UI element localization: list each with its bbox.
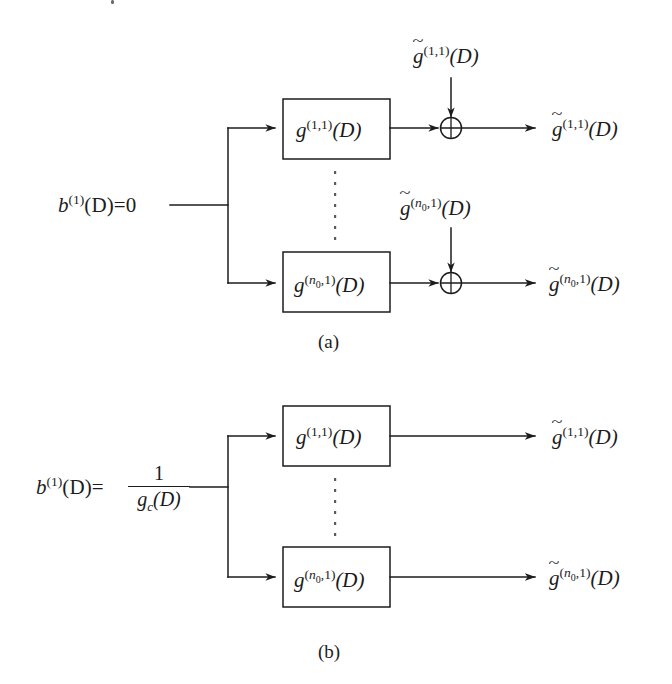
panel-b-block-2-arg: (D)	[335, 568, 364, 592]
panel-a-block-2-superscript: (n0,1)	[305, 272, 336, 287]
panel-a-block-2-arg: (D)	[335, 273, 364, 297]
panel-a-noise-2-tilde-group: ~g	[400, 198, 411, 219]
panel-b-block-2-superscript: (n0,1)	[305, 567, 336, 582]
panel-a-output-2-superscript: (n0,1)	[560, 271, 591, 286]
figure-container: b(1)(D)=0 g(1,1)(D) g(n0,1)(D) ~g(1,1)(D…	[0, 0, 672, 684]
panel-a-block-1-base: g	[296, 118, 307, 142]
tilde-icon: ~	[413, 34, 424, 49]
panel-a-input-arg: (D)=0	[84, 193, 136, 217]
panel-b-output-2-superscript: (n0,1)	[560, 565, 591, 580]
panel-b-output-2-sup-zero: 0	[571, 572, 576, 583]
panel-a-vertical-ellipsis	[334, 171, 336, 240]
panel-b-input-base: b	[36, 475, 47, 499]
panel-b-output-label-1: ~g(1,1)(D)	[552, 425, 618, 448]
panel-b-block-2-sup-n: n	[309, 567, 316, 582]
panel-a-adder-2-cross	[442, 274, 461, 293]
panel-b-output-1-tilde-group: ~g	[552, 427, 563, 448]
panel-b-input-fraction: 1 gc(D)	[128, 462, 190, 515]
panel-b-input-superscript: (1)	[47, 474, 63, 489]
fraction-denominator-base: g	[137, 488, 147, 510]
panel-b-block-1-arg: (D)	[332, 425, 361, 449]
panel-a-output-1-arg: (D)	[588, 117, 617, 141]
tilde-icon: ~	[549, 262, 560, 277]
panel-a-noise-label-1: ~g(1,1)(D)	[413, 44, 479, 67]
panel-a-noise-2-sup-n: n	[415, 195, 422, 210]
panel-a-input-base: b	[58, 193, 69, 217]
panel-a-block-2-sup-zero: 0	[316, 279, 321, 290]
panel-b-block-1-label: g(1,1)(D)	[296, 424, 362, 450]
panel-a-output-1-superscript: (1,1)	[563, 116, 589, 131]
panel-b-block-2-sup-zero: 0	[316, 574, 321, 585]
panel-b-input-arg: (D)=	[62, 475, 103, 499]
panel-b-output-1-superscript: (1,1)	[563, 424, 589, 439]
panel-a-adder-1-cross	[442, 119, 461, 138]
fraction-numerator: 1	[128, 462, 190, 486]
tilde-icon: ~	[549, 556, 560, 571]
panel-a-output-label-2: ~g(n0,1)(D)	[549, 272, 620, 295]
panel-b-block-1-superscript: (1,1)	[307, 424, 333, 439]
panel-a-block-2-label: g(n0,1)(D)	[294, 272, 365, 298]
panel-a-output-2-arg: (D)	[590, 272, 619, 296]
panel-b-vertical-ellipsis	[334, 478, 336, 536]
panel-b-block-2-label: g(n0,1)(D)	[294, 567, 365, 593]
panel-a-output-2-sup-n: n	[564, 271, 571, 286]
panel-b-caption: (b)	[318, 641, 340, 663]
panel-a-output-2-tilde-group: ~g	[549, 274, 560, 295]
panel-a-noise-2-sup-zero: 0	[422, 202, 427, 213]
panel-a-block-1-superscript: (1,1)	[307, 117, 333, 132]
panel-a-caption: (a)	[318, 331, 339, 353]
panel-a-noise-1-arg: (D)	[449, 44, 478, 68]
panel-a-block-2-base: g	[294, 273, 305, 297]
fraction-denominator: gc(D)	[128, 487, 190, 515]
panel-a-block-2-sup-n: n	[309, 272, 316, 287]
tilde-icon: ~	[552, 107, 563, 122]
panel-a-noise-2-arg: (D)	[441, 196, 470, 220]
panel-a-noise-2-superscript: (n0,1)	[411, 195, 442, 210]
panel-b-output-1-arg: (D)	[588, 425, 617, 449]
panel-b-input-label: b(1)(D)=	[36, 475, 104, 498]
tilde-icon: ~	[400, 186, 411, 201]
panel-a-input-label: b(1)(D)=0	[58, 193, 136, 216]
panel-b-block-2-base: g	[294, 568, 305, 592]
panel-a-output-1-tilde-group: ~g	[552, 119, 563, 140]
panel-b-output-2-sup-n: n	[564, 565, 571, 580]
panel-b-output-2-tilde-group: ~g	[549, 568, 560, 589]
panel-a-output-2-sup-zero: 0	[571, 278, 576, 289]
panel-a-input-superscript: (1)	[69, 192, 85, 207]
panel-a-block-1-label: g(1,1)(D)	[296, 117, 362, 143]
tilde-icon: ~	[552, 415, 563, 430]
panel-b-output-2-arg: (D)	[590, 566, 619, 590]
panel-a-block-1-arg: (D)	[332, 118, 361, 142]
panel-b-block-1-base: g	[296, 425, 307, 449]
panel-a-noise-label-2: ~g(n0,1)(D)	[400, 196, 471, 219]
panel-b-output-label-2: ~g(n0,1)(D)	[549, 566, 620, 589]
panel-a-noise-1-superscript: (1,1)	[424, 43, 450, 58]
panel-a-noise-1-tilde-group: ~g	[413, 46, 424, 67]
panel-a-output-label-1: ~g(1,1)(D)	[552, 117, 618, 140]
fraction-denominator-arg: (D)	[153, 488, 181, 510]
